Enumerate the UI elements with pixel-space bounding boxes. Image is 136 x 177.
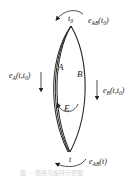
right-transport-label: eB(t,t0) xyxy=(103,86,125,96)
path-a-label: A xyxy=(57,62,64,72)
bottom-rotation-arrow xyxy=(57,159,86,167)
path-b-label: B xyxy=(77,69,83,79)
path-e-label: E xyxy=(63,103,70,113)
top-rotation-label: eAB(t0) xyxy=(88,16,109,26)
loop-diagram: t0 eAB(t0) A B E eA(t,t0) eB(t,t0) t eAB… xyxy=(0,0,136,177)
top-point-label: t0 xyxy=(68,14,73,24)
path-b-curve xyxy=(70,26,85,152)
bottom-point-label: t xyxy=(69,155,72,164)
left-transport-label: eA(t,t0) xyxy=(9,71,31,81)
path-a-curves xyxy=(54,26,71,152)
bottom-rotation-label: eAB(t) xyxy=(89,157,107,167)
figure-caption: 图 — 路径与旋转示意图 xyxy=(20,169,83,177)
